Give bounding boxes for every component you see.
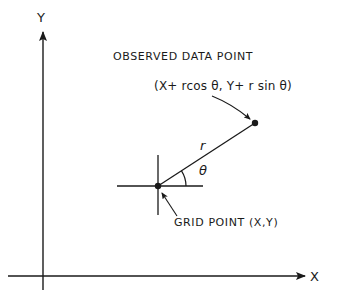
observed-point-formula: (X+ rcos θ, Y+ r sin θ) bbox=[154, 79, 292, 93]
diagram-canvas bbox=[0, 0, 337, 303]
radius-symbol: r bbox=[200, 138, 206, 153]
angle-symbol: θ bbox=[199, 163, 208, 178]
grid-point-dot bbox=[155, 183, 161, 189]
grid-point-label: GRID POINT (X,Y) bbox=[174, 216, 278, 229]
observed-point-dot bbox=[252, 120, 258, 126]
x-axis-label: X bbox=[310, 269, 320, 284]
grid-point-leader-arrow bbox=[162, 193, 177, 216]
y-axis-label: Y bbox=[37, 10, 46, 25]
observed-point-leader-arrow bbox=[212, 96, 250, 119]
angle-arc bbox=[182, 171, 187, 186]
observed-point-title: OBSERVED DATA POINT bbox=[113, 50, 253, 63]
